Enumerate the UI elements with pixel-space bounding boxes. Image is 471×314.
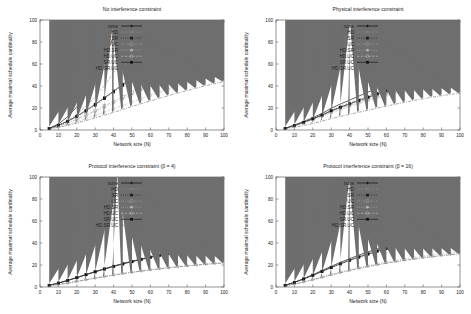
legend-label: HD.SR.UC (331, 66, 354, 71)
x-tick-label: 40 (111, 290, 117, 295)
legend-label: none (343, 181, 354, 186)
legend-label: SR (112, 193, 119, 198)
x-tick-label: 0 (39, 290, 42, 295)
legend-label: HD.UC (103, 211, 118, 216)
x-tick-label: 10 (56, 290, 62, 295)
legend-label: UC (347, 199, 354, 204)
x-tick-label: 50 (129, 133, 135, 138)
legend-label: UC (347, 42, 354, 47)
legend-label: SR (112, 36, 119, 41)
panel-title: Protocol interference constraint (β = 16… (323, 163, 413, 169)
chart-panel-top-left: No interference constraint01020304050607… (0, 0, 235, 157)
y-tick-label: 40 (267, 84, 273, 89)
y-tick-label: 20 (267, 263, 273, 268)
legend-label: HD.UC (339, 54, 354, 59)
x-tick-label: 100 (456, 133, 464, 138)
x-tick-label: 70 (402, 133, 408, 138)
x-tick-label: 70 (166, 290, 172, 295)
legend-label: none (108, 24, 119, 29)
legend-label: SR.UC (104, 217, 119, 222)
legend-label: HD.UC (339, 211, 354, 216)
y-tick-label: 100 (29, 175, 37, 180)
legend-label: HD (111, 30, 118, 35)
y-tick-label: 0 (34, 285, 37, 290)
y-tick-label: 20 (267, 106, 273, 111)
legend-label: SR (347, 36, 354, 41)
legend-label: UC (111, 199, 118, 204)
y-tick-label: 0 (270, 285, 273, 290)
y-axis-label: Average maximal schedule cardinality (7, 189, 13, 275)
x-tick-label: 10 (291, 133, 297, 138)
legend-label: HD.SR.UC (96, 223, 119, 228)
y-tick-label: 60 (267, 219, 273, 224)
x-tick-label: 70 (402, 290, 408, 295)
legend-label: HD.SR (104, 48, 119, 53)
legend-label: HD.SR (339, 48, 354, 53)
y-tick-label: 40 (32, 241, 38, 246)
x-tick-label: 100 (456, 290, 464, 295)
x-tick-label: 0 (274, 133, 277, 138)
series-line (49, 263, 224, 286)
x-tick-label: 90 (203, 133, 209, 138)
x-tick-label: 100 (220, 290, 228, 295)
panel-title: Protocol interference constraint (β = 4) (89, 163, 176, 169)
x-tick-label: 10 (56, 133, 62, 138)
x-tick-label: 80 (185, 133, 191, 138)
legend-label: none (343, 24, 354, 29)
x-tick-label: 0 (274, 290, 277, 295)
legend-label: UC (111, 42, 118, 47)
chart-panel-bottom-right: Protocol interference constraint (β = 16… (236, 157, 471, 314)
x-tick-label: 40 (347, 133, 353, 138)
legend-label: HD.SR.UC (96, 66, 119, 71)
y-tick-label: 80 (267, 40, 273, 45)
x-tick-label: 20 (74, 133, 80, 138)
x-tick-label: 60 (148, 133, 154, 138)
y-tick-label: 0 (270, 128, 273, 133)
x-tick-label: 30 (328, 133, 334, 138)
x-tick-label: 100 (220, 133, 228, 138)
y-tick-label: 20 (32, 106, 38, 111)
x-tick-label: 10 (291, 290, 297, 295)
x-tick-label: 40 (347, 290, 353, 295)
y-tick-label: 40 (32, 84, 38, 89)
series-line (49, 263, 224, 286)
y-tick-label: 60 (32, 62, 38, 67)
y-tick-label: 100 (265, 175, 273, 180)
x-axis-label: Network size (N) (113, 298, 151, 304)
chart-panel-bottom-left: Protocol interference constraint (β = 4)… (0, 157, 235, 314)
x-tick-label: 70 (166, 133, 172, 138)
y-tick-label: 80 (32, 197, 38, 202)
legend-label: SR.UC (339, 217, 354, 222)
legend-label: SR (347, 193, 354, 198)
x-tick-label: 80 (420, 290, 426, 295)
legend-label: SR.UC (104, 60, 119, 65)
x-axis-label: Network size (N) (349, 141, 387, 147)
x-tick-label: 20 (310, 290, 316, 295)
legend-label: none (108, 181, 119, 186)
x-tick-label: 90 (203, 290, 209, 295)
y-tick-label: 80 (267, 197, 273, 202)
x-tick-label: 20 (310, 133, 316, 138)
x-axis-label: Network size (N) (349, 298, 387, 304)
figure-grid: No interference constraint01020304050607… (0, 0, 471, 314)
series-line (49, 263, 224, 286)
y-tick-label: 100 (265, 18, 273, 23)
x-tick-label: 90 (439, 290, 445, 295)
chart-panel-top-right: Physical interference constraint01020304… (236, 0, 471, 157)
legend-label: HD.UC (103, 54, 118, 59)
x-tick-label: 30 (93, 290, 99, 295)
x-axis-label: Network size (N) (113, 141, 151, 147)
legend-label: HD.SR (339, 205, 354, 210)
panel-title: No interference constraint (103, 6, 162, 12)
y-tick-label: 60 (267, 62, 273, 67)
x-tick-label: 50 (365, 290, 371, 295)
legend-label: HD (347, 30, 354, 35)
x-tick-label: 80 (420, 133, 426, 138)
x-tick-label: 30 (93, 133, 99, 138)
x-tick-label: 60 (148, 290, 154, 295)
y-tick-label: 100 (29, 18, 37, 23)
y-tick-label: 20 (32, 263, 38, 268)
y-axis-label: Average maximal schedule cardinality (7, 32, 13, 118)
x-tick-label: 20 (74, 290, 80, 295)
y-axis-label: Average maximal schedule cardinality (243, 32, 249, 118)
